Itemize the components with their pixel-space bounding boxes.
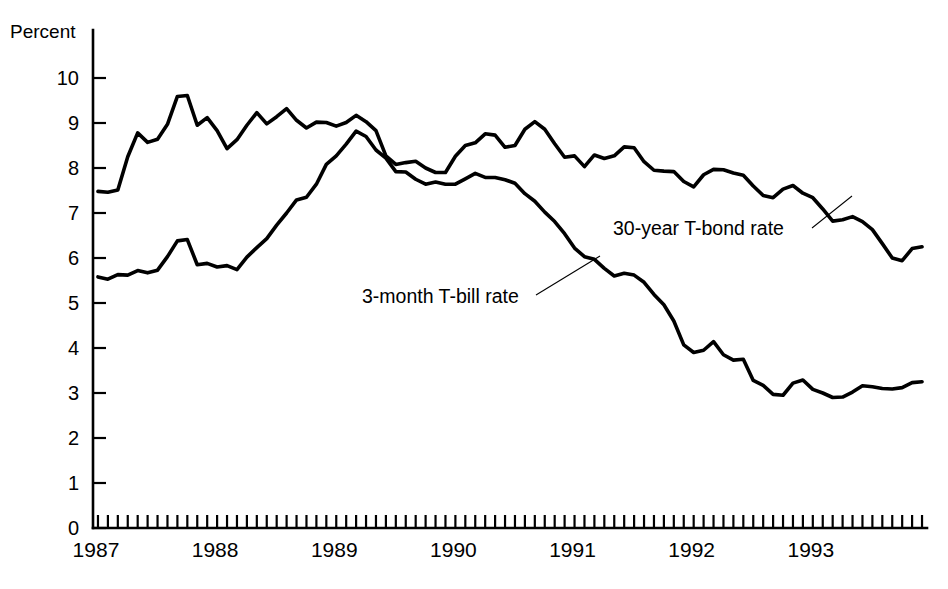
x-tick-label-1987: 1987 bbox=[73, 538, 120, 561]
annotation-group: 30-year T-bond rate 3-month T-bill rate bbox=[362, 196, 852, 307]
x-tick-label-1992: 1992 bbox=[668, 538, 715, 561]
series-group bbox=[98, 96, 922, 398]
y-tick-label-5: 5 bbox=[68, 292, 79, 314]
y-tick-label-1: 1 bbox=[68, 472, 79, 494]
chart-canvas: 012345678910 Percent 1987198819891990199… bbox=[0, 0, 948, 589]
y-tick-label-3: 3 bbox=[68, 382, 79, 404]
y-tick-label-2: 2 bbox=[68, 427, 79, 449]
y-tick-label-6: 6 bbox=[68, 247, 79, 269]
series-line-t-bond bbox=[98, 96, 922, 261]
y-tick-label-7: 7 bbox=[68, 202, 79, 224]
y-axis-group: 012345678910 Percent bbox=[10, 21, 106, 539]
x-tick-label-1991: 1991 bbox=[549, 538, 596, 561]
y-tick-marks bbox=[93, 78, 106, 528]
series-label-t-bond: 30-year T-bond rate bbox=[613, 217, 784, 239]
x-tick-labels: 1987198819891990199119921993 bbox=[73, 538, 835, 561]
x-tick-label-1988: 1988 bbox=[192, 538, 239, 561]
leader-line-t-bill bbox=[536, 256, 600, 295]
y-tick-label-9: 9 bbox=[68, 112, 79, 134]
rates-line-chart: 012345678910 Percent 1987198819891990199… bbox=[0, 0, 948, 589]
y-tick-label-8: 8 bbox=[68, 157, 79, 179]
series-label-t-bill: 3-month T-bill rate bbox=[362, 285, 519, 307]
leader-line-t-bond bbox=[812, 196, 852, 228]
y-tick-label-0: 0 bbox=[68, 517, 79, 539]
y-tick-label-10: 10 bbox=[57, 67, 79, 89]
y-tick-label-4: 4 bbox=[68, 337, 79, 359]
series-line-t-bill bbox=[98, 131, 922, 397]
x-tick-label-1990: 1990 bbox=[430, 538, 477, 561]
x-tick-label-1989: 1989 bbox=[311, 538, 358, 561]
y-axis-label: Percent bbox=[10, 21, 76, 42]
x-axis-group: 1987198819891990199119921993 bbox=[73, 515, 927, 561]
x-tick-marks bbox=[98, 515, 922, 528]
x-tick-label-1993: 1993 bbox=[787, 538, 834, 561]
y-tick-labels: 012345678910 bbox=[57, 67, 79, 539]
